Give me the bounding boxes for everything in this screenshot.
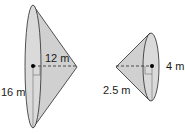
left-center-dot (31, 64, 35, 68)
cones-diagram: 12 m 16 m 4 m 2.5 m (0, 0, 185, 134)
right-slant-label: 2.5 m (103, 84, 131, 96)
left-height-label: 12 m (45, 52, 69, 64)
right-radius-label: 4 m (166, 60, 184, 72)
right-cone: 4 m 2.5 m (103, 33, 184, 101)
left-cone: 12 m 16 m (1, 5, 77, 128)
right-center-dot (150, 64, 154, 68)
left-diameter-label: 16 m (1, 86, 25, 98)
